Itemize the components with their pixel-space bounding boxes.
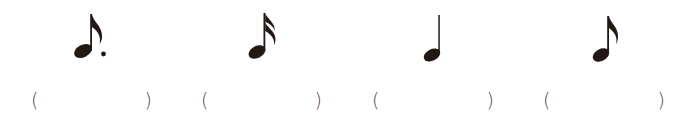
- open-paren: (: [372, 86, 379, 114]
- open-paren: (: [201, 86, 208, 114]
- answer-blank-1[interactable]: ( ): [31, 86, 152, 114]
- open-paren: (: [543, 86, 550, 114]
- close-paren: ): [658, 86, 665, 114]
- answer-blank-4[interactable]: ( ): [543, 86, 665, 114]
- answer-blank-3[interactable]: ( ): [372, 86, 494, 114]
- sixteenth-note-icon: [236, 8, 296, 68]
- quarter-note-icon: [410, 8, 470, 68]
- answer-blank-2[interactable]: ( ): [201, 86, 322, 114]
- close-paren: ): [315, 86, 322, 114]
- close-paren: ): [487, 86, 494, 114]
- close-paren: ): [145, 86, 152, 114]
- open-paren: (: [31, 86, 38, 114]
- eighth-note-icon: [580, 8, 640, 68]
- dotted-eighth-note-icon: [62, 8, 122, 68]
